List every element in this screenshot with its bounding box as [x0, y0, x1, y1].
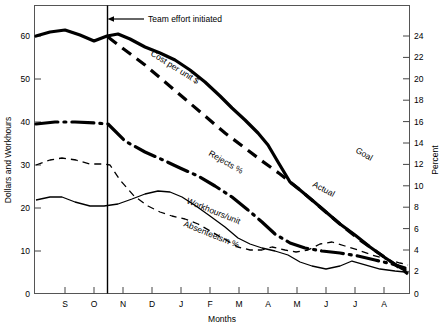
right-tick-22: 22 [414, 52, 424, 62]
right-tick-16: 16 [414, 117, 424, 127]
right-tick-0: 0 [414, 289, 419, 299]
right-tick-14: 14 [414, 138, 424, 148]
month-label-j3: J [353, 299, 357, 309]
left-axis-tick-labels: 60 50 40 30 20 10 0 [21, 31, 31, 299]
month-label-o: O [91, 299, 98, 309]
right-tick-24: 24 [414, 31, 424, 41]
right-tick-18: 18 [414, 95, 424, 105]
x-axis-title: Months [208, 314, 236, 324]
right-tick-4: 4 [414, 245, 419, 255]
month-label-j1: J [179, 299, 183, 309]
left-tick-20: 20 [21, 203, 31, 213]
month-label-a2: A [381, 299, 387, 309]
left-tick-50: 50 [21, 74, 31, 84]
right-tick-6: 6 [414, 224, 419, 234]
left-tick-30: 30 [21, 160, 31, 170]
left-tick-40: 40 [21, 117, 31, 127]
right-tick-12: 12 [414, 159, 424, 169]
left-tick-0: 0 [25, 289, 30, 299]
x-axis-tick-labels: S O N D J F M A M J J A [62, 299, 387, 309]
annotation-team-effort-label: Team effort initiated [148, 14, 222, 24]
y-axis-right-title: Percent [430, 145, 440, 175]
month-label-j2: J [324, 299, 328, 309]
chart-svg: 60 50 40 30 20 10 0 24 22 20 1 [0, 0, 446, 333]
month-label-m2: M [293, 299, 300, 309]
right-axis-tick-labels: 24 22 20 18 16 14 12 10 8 6 4 2 0 [414, 31, 424, 299]
month-label-a1: A [265, 299, 271, 309]
y-axis-left-title: Dollars and Workhours [3, 117, 13, 203]
left-tick-60: 60 [21, 31, 31, 41]
right-tick-20: 20 [414, 74, 424, 84]
right-tick-2: 2 [414, 266, 419, 276]
plot-frame [35, 6, 410, 294]
right-tick-8: 8 [414, 202, 419, 212]
month-label-n: N [120, 299, 126, 309]
chart-figure: 60 50 40 30 20 10 0 24 22 20 1 [0, 0, 446, 333]
month-label-f: F [207, 299, 212, 309]
month-label-m1: M [235, 299, 242, 309]
right-tick-10: 10 [414, 181, 424, 191]
month-label-d: D [149, 299, 155, 309]
month-label-s1: S [62, 299, 68, 309]
left-tick-10: 10 [21, 246, 31, 256]
